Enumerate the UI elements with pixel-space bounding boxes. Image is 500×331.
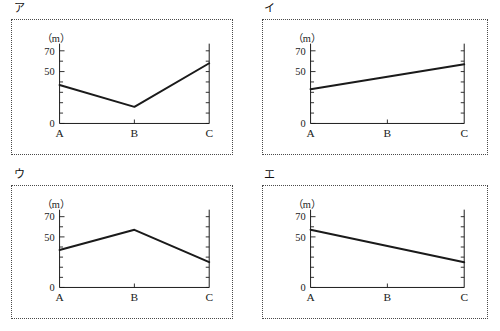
elevation-chart-d: （m）05070ABC	[263, 186, 487, 318]
y-axis-tick-label: 50	[295, 66, 305, 77]
x-axis-label: A	[55, 127, 64, 139]
panel-tag-c: ウ	[14, 168, 25, 182]
y-axis-tick-label: 0	[49, 118, 54, 129]
y-axis-tick-label: 70	[295, 211, 305, 222]
x-axis-label: A	[306, 291, 315, 303]
x-axis-label: A	[55, 291, 64, 303]
x-axis-label: B	[384, 291, 392, 303]
y-axis-tick-label: 50	[295, 232, 305, 243]
panel-border-b: （m）05070ABC	[262, 19, 488, 155]
panel-grid: ア （m）05070ABC イ （m）05070ABC ウ （m）05070AB…	[0, 0, 500, 331]
panel-d: エ （m）05070ABC	[250, 166, 500, 331]
panel-border-c: （m）05070ABC	[11, 185, 233, 319]
panel-c: ウ （m）05070ABC	[0, 166, 250, 331]
y-axis-tick-label: 0	[49, 282, 54, 293]
elevation-chart-b: （m）05070ABC	[263, 20, 487, 154]
elevation-chart-c: （m）05070ABC	[12, 186, 232, 318]
panel-tag-b: イ	[264, 2, 275, 16]
y-axis-tick-label: 0	[300, 282, 305, 293]
unit-label: （m）	[293, 33, 321, 44]
y-axis-tick-label: 50	[44, 232, 54, 243]
x-axis-label: B	[131, 127, 139, 139]
unit-label: （m）	[42, 33, 70, 44]
panel-a: ア （m）05070ABC	[0, 0, 250, 166]
elevation-profile-line	[60, 230, 210, 262]
elevation-profile-line	[311, 230, 465, 262]
panel-tag-d: エ	[264, 168, 275, 182]
y-axis-tick-label: 70	[295, 46, 305, 57]
elevation-profile-line	[60, 63, 210, 107]
x-axis-label: C	[205, 127, 213, 139]
panel-border-a: （m）05070ABC	[11, 19, 233, 155]
x-axis-label: C	[205, 291, 213, 303]
x-axis-label: C	[460, 127, 468, 139]
x-axis-label: B	[131, 291, 139, 303]
panel-b: イ （m）05070ABC	[250, 0, 500, 166]
panel-tag-a: ア	[14, 2, 25, 16]
unit-label: （m）	[293, 199, 321, 210]
unit-label: （m）	[42, 199, 70, 210]
x-axis-label: B	[384, 127, 392, 139]
y-axis-tick-label: 0	[300, 118, 305, 129]
y-axis-tick-label: 70	[44, 46, 54, 57]
x-axis-label: C	[460, 291, 468, 303]
elevation-chart-a: （m）05070ABC	[12, 20, 232, 154]
x-axis-label: A	[306, 127, 315, 139]
y-axis-tick-label: 50	[44, 66, 54, 77]
panel-border-d: （m）05070ABC	[262, 185, 488, 319]
elevation-profile-line	[311, 64, 465, 89]
y-axis-tick-label: 70	[44, 211, 54, 222]
